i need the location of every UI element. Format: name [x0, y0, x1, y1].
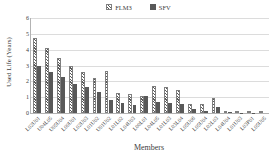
y-tick-label: 3: [21, 62, 29, 70]
bar-sfv: [97, 92, 101, 113]
bar-sfv: [168, 103, 172, 113]
gridline: [31, 81, 269, 82]
gridline: [31, 18, 269, 19]
y-tick-label: 1: [21, 93, 29, 101]
y-tick-label: 0: [21, 109, 29, 117]
bar-sfv: [61, 77, 65, 113]
bar-sfv: [228, 112, 232, 113]
solid-swatch-icon: [150, 4, 156, 10]
bar-sfv: [109, 100, 113, 113]
legend-item-sfv: SFV: [150, 4, 171, 11]
bar-flm3: [259, 111, 263, 113]
gridline: [31, 97, 269, 98]
bar-sfv: [121, 103, 125, 113]
bar-sfv: [49, 72, 53, 113]
y-tick-label: 4: [21, 46, 29, 54]
y-axis-title: Used Life (Years): [5, 27, 13, 97]
bar-sfv: [144, 96, 148, 113]
gridline: [31, 34, 269, 35]
gridline: [31, 50, 269, 51]
bar-sfv: [85, 87, 89, 113]
bar-sfv: [192, 109, 196, 113]
legend-item-flm3: FLM3: [106, 4, 132, 11]
x-axis-title: Members: [30, 143, 268, 152]
legend-label: FLM3: [115, 4, 132, 11]
bar-sfv: [216, 107, 220, 113]
bar-chart: FLM3SFV Used Life (Years) 0123456L02U01U…: [0, 0, 277, 157]
y-tick-label: 5: [21, 30, 29, 38]
bar-sfv: [204, 111, 208, 113]
bar-sfv: [73, 84, 77, 113]
gridline: [31, 66, 269, 67]
bar-sfv: [133, 105, 137, 113]
bar-sfv: [156, 102, 160, 113]
y-tick-label: 2: [21, 77, 29, 85]
bar-sfv: [180, 104, 184, 114]
bar-sfv: [37, 66, 41, 114]
plot-area: 0123456L02U01U04L05U05U04L00U01L02U03L01…: [30, 18, 269, 114]
legend-label: SFV: [159, 4, 171, 11]
hatch-swatch-icon: [106, 4, 112, 10]
chart-legend: FLM3SFV: [0, 1, 277, 13]
y-tick-label: 6: [21, 14, 29, 22]
